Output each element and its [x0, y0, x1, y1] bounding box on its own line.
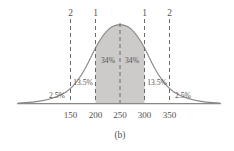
- region-label-minus-2-to-minus-1: 13.5%: [73, 79, 93, 87]
- sd-marker-plus-2: 2: [167, 9, 172, 19]
- region-label-minus-1-to-mean: 34%: [101, 57, 115, 65]
- region-label-left-tail: 2.5%: [49, 92, 65, 100]
- region-label-mean-to-plus-1: 34%: [125, 57, 139, 65]
- region-label-right-tail: 2.5%: [175, 92, 191, 100]
- region-label-plus-1-to-plus-2: 13.5%: [147, 79, 167, 87]
- x-tick-label-150: 150: [64, 111, 78, 120]
- bell-curve-plot: [0, 0, 234, 151]
- x-tick-label-350: 350: [163, 111, 177, 120]
- x-tick-label-250: 250: [113, 111, 127, 120]
- x-tick-label-200: 200: [89, 111, 103, 120]
- figure-caption: (b): [114, 131, 125, 141]
- sd-marker-minus-2: 2: [68, 9, 73, 19]
- x-tick-label-300: 300: [138, 111, 152, 120]
- sd-marker-minus-1: 1: [93, 9, 98, 19]
- normal-distribution-figure: 2 1 1 2 2.5% 13.5% 34% 34% 13.5% 2.5% 15…: [0, 0, 234, 151]
- sd-marker-plus-1: 1: [142, 9, 147, 19]
